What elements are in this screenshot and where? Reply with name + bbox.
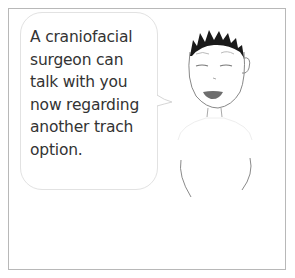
right-eye: [220, 65, 232, 66]
hair: [190, 30, 244, 58]
right-eyebrow: [221, 52, 234, 54]
left-eyebrow: [196, 53, 209, 55]
right-arm: [242, 158, 251, 190]
speech-bubble-tail: [157, 95, 172, 106]
face-outline: [189, 52, 245, 108]
neck-right: [221, 108, 222, 117]
character-illustration: [0, 0, 295, 278]
nose: [213, 78, 216, 79]
shoulders: [178, 118, 252, 140]
left-eye: [196, 65, 208, 66]
neck-left: [207, 108, 208, 117]
left-arm: [180, 160, 191, 197]
mouth: [203, 91, 223, 99]
ear-icon: [242, 58, 250, 73]
